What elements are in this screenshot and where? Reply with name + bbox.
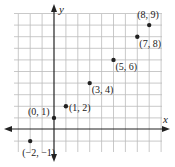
- scatter-plot: x y (−2, −1)(0, 1)(1, 2)(3, 4)(5, 6)(7, …: [0, 0, 175, 167]
- point-label: (5, 6): [116, 61, 138, 73]
- x-axis: [4, 126, 170, 132]
- point-label: (3, 4): [92, 84, 114, 96]
- data-point: [28, 139, 32, 143]
- point-label: (0, 1): [28, 106, 50, 118]
- y-axis-label: y: [58, 3, 64, 15]
- data-point: [64, 104, 68, 108]
- point-label: (−2, −1): [22, 147, 55, 159]
- data-points: (−2, −1)(0, 1)(1, 2)(3, 4)(5, 6)(7, 8)(8…: [22, 9, 161, 159]
- point-label: (1, 2): [69, 102, 91, 114]
- data-point: [52, 116, 56, 120]
- x-axis-label: x: [162, 113, 168, 125]
- point-label: (8, 9): [137, 9, 159, 21]
- data-point: [147, 23, 151, 27]
- point-label: (7, 8): [139, 38, 161, 50]
